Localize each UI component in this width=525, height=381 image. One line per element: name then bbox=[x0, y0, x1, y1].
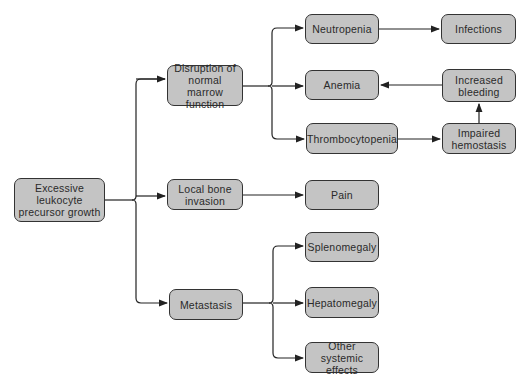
node-pain: Pain bbox=[305, 180, 379, 210]
node-local-bone-invasion: Local bone invasion bbox=[167, 179, 243, 210]
node-infections: Infections bbox=[441, 14, 516, 44]
node-disruption-marrow: Disruption of normal marrow function bbox=[167, 65, 243, 106]
node-hepatomegaly: Hepatomegaly bbox=[305, 287, 379, 318]
node-neutropenia: Neutropenia bbox=[305, 14, 379, 44]
node-anemia: Anemia bbox=[305, 70, 379, 100]
node-impaired-hemostasis: Impaired hemostasis bbox=[442, 123, 516, 154]
node-thrombocytopenia: Thrombocytopenia bbox=[306, 123, 398, 154]
node-splenomegaly: Splenomegaly bbox=[305, 232, 379, 262]
node-other-systemic-effects: Other systemic effects bbox=[305, 342, 379, 373]
node-increased-bleeding: Increased bleeding bbox=[442, 69, 516, 102]
node-excessive-leukocyte-growth: Excessive leukocyte precursor growth bbox=[14, 178, 105, 222]
node-metastasis: Metastasis bbox=[169, 289, 243, 320]
